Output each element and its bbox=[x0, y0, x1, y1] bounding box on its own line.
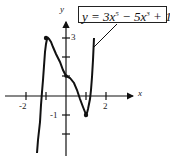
tick-label-neg1: -1 bbox=[50, 110, 58, 120]
tick-label-neg2: -2 bbox=[19, 101, 27, 111]
tick-label-3: 3 bbox=[71, 32, 76, 42]
equation-part: + 1 bbox=[150, 9, 170, 24]
x-axis-label: x bbox=[138, 88, 142, 98]
local-max-point bbox=[44, 36, 48, 40]
y-axis-label: y bbox=[60, 4, 64, 14]
callout-leader bbox=[94, 24, 117, 47]
y-intercept-point bbox=[64, 74, 68, 78]
equation-part: − 5x bbox=[119, 9, 147, 24]
equation-part: y = 3x bbox=[82, 9, 115, 24]
local-min-point bbox=[84, 113, 88, 117]
equation-callout: y = 3x5 − 5x3 + 1 bbox=[78, 6, 167, 23]
tick-label-2: 2 bbox=[103, 101, 108, 111]
